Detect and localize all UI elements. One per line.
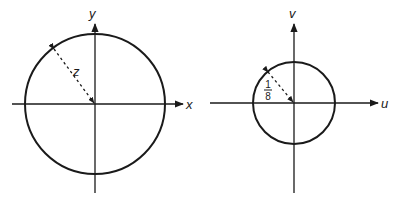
u-axis-label: u [381,96,388,111]
y-axis-label: y [88,6,97,21]
w-plane-diagram: u v 1 8 [210,6,388,193]
fraction-numerator: 1 [265,79,271,90]
radius-fraction-label: 1 8 [264,79,272,102]
radius-label: z [72,64,80,79]
z-plane-diagram: x y z [12,6,193,193]
fraction-denominator: 8 [265,91,271,102]
figure-canvas: x y z u v 1 8 [0,0,395,199]
x-axis-label: x [185,97,193,112]
v-axis-label: v [289,6,297,21]
radius-line [268,72,293,102]
